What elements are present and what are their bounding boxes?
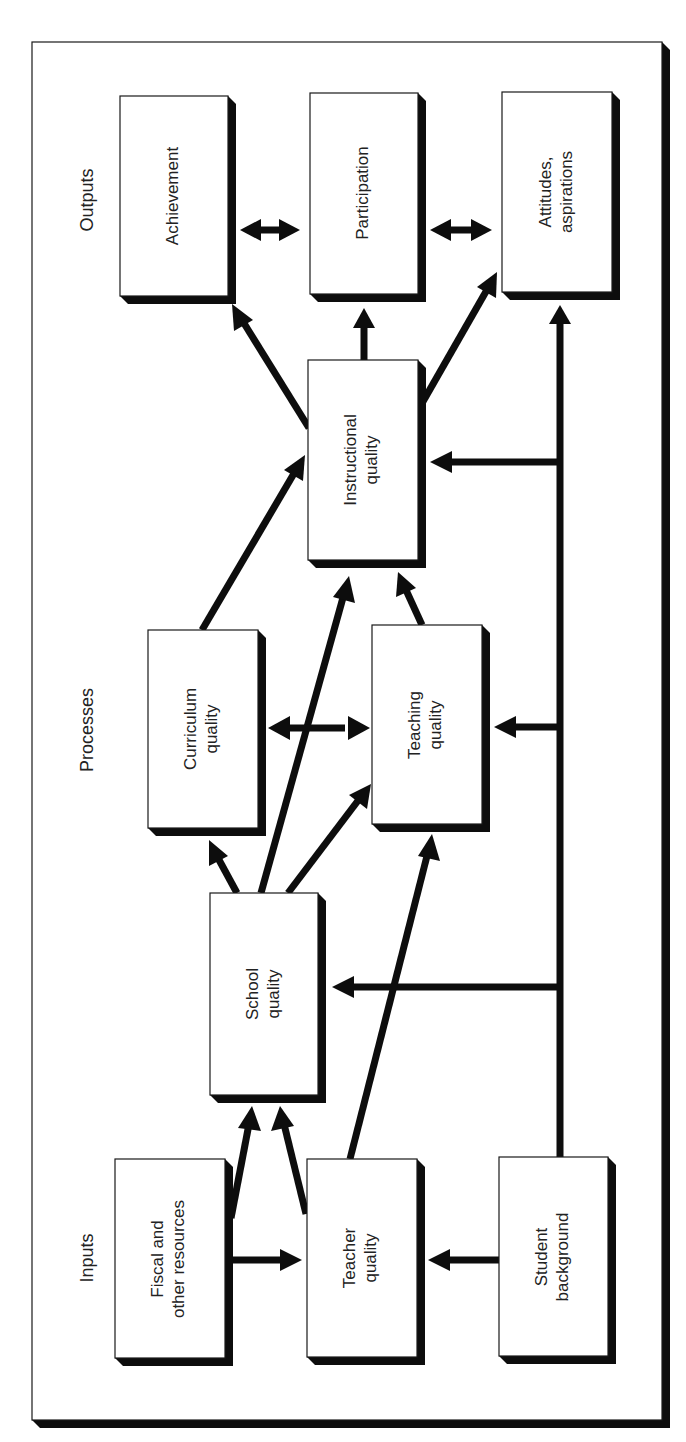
- node-student-background: Student background: [499, 1157, 616, 1364]
- node-label: Student: [532, 1227, 551, 1286]
- node-label: Participation: [353, 146, 372, 240]
- node-label: Curriculum: [181, 688, 200, 770]
- node-label: Attitudes,: [536, 157, 555, 228]
- node-label: background: [553, 1213, 572, 1302]
- node-label: School: [243, 968, 262, 1020]
- node-label: Teaching: [405, 691, 424, 759]
- node-label: quality: [264, 969, 283, 1019]
- node-attitudes-aspirations: Attitudes, aspirations: [502, 92, 620, 300]
- stage-label-processes: Processes: [77, 688, 97, 772]
- node-curriculum-quality: Curriculum quality: [148, 630, 266, 836]
- node-label: aspirations: [557, 151, 576, 233]
- stage-label-outputs: Outputs: [77, 168, 97, 231]
- node-fiscal-resources: Fiscal and other resources: [115, 1159, 233, 1366]
- node-teaching-quality: Teaching quality: [372, 625, 490, 832]
- node-label: Achievement: [163, 147, 182, 246]
- education-quality-diagram: Outputs Processes Inputs: [0, 0, 686, 1442]
- node-label: Fiscal and: [148, 1220, 167, 1297]
- node-label: quality: [361, 1233, 380, 1283]
- node-teacher-quality: Teacher quality: [307, 1159, 425, 1365]
- stage-label-inputs: Inputs: [77, 1233, 97, 1282]
- node-label: quality: [202, 704, 221, 754]
- node-school-quality: School quality: [210, 893, 326, 1103]
- node-label: Teacher: [340, 1227, 359, 1288]
- node-label: other resources: [169, 1200, 188, 1318]
- node-label: quality: [426, 700, 445, 750]
- node-label: quality: [362, 435, 381, 485]
- node-participation: Participation: [310, 93, 426, 302]
- node-instructional-quality: Instructional quality: [308, 360, 426, 568]
- node-achievement: Achievement: [120, 96, 236, 304]
- node-label: Instructional: [341, 414, 360, 506]
